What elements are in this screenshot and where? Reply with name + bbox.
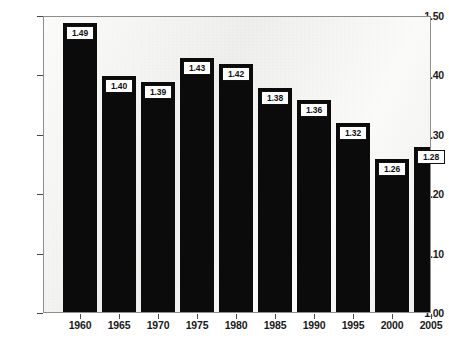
x-tick-label: 1980	[216, 320, 256, 331]
x-tick-label: 1975	[177, 320, 217, 331]
bar-value-label: 1.40	[105, 79, 133, 93]
bar-value-label: 1.26	[378, 162, 406, 176]
bar	[336, 123, 370, 312]
x-tick-label: 2005	[411, 320, 449, 331]
x-tick-label: 2000	[372, 320, 412, 331]
bar-value-label: 1.43	[183, 61, 211, 75]
bar	[219, 64, 253, 312]
bar-value-label: 1.38	[261, 91, 289, 105]
bars-layer	[44, 17, 430, 312]
bar-value-label: 1.32	[339, 126, 367, 140]
bar	[63, 23, 97, 312]
bar	[141, 82, 175, 312]
bar	[414, 147, 431, 312]
x-tick-label: 1960	[60, 320, 100, 331]
bar-value-label: 1.49	[66, 26, 94, 40]
bar-value-label: 1.39	[144, 85, 172, 99]
y-tick-mark	[37, 313, 43, 314]
x-tick-label: 1970	[138, 320, 178, 331]
bar-value-label: 1.36	[300, 103, 328, 117]
bar-value-label: 1.28	[417, 150, 445, 164]
bar	[102, 76, 136, 312]
bar	[375, 159, 409, 312]
x-tick-label: 1990	[294, 320, 334, 331]
bar	[180, 58, 214, 312]
bar	[297, 100, 331, 312]
bar-value-label: 1.42	[222, 67, 250, 81]
x-tick-label: 1995	[333, 320, 373, 331]
plot-area	[43, 16, 431, 313]
x-tick-label: 1965	[99, 320, 139, 331]
bar	[258, 88, 292, 312]
x-tick-label: 1985	[255, 320, 295, 331]
